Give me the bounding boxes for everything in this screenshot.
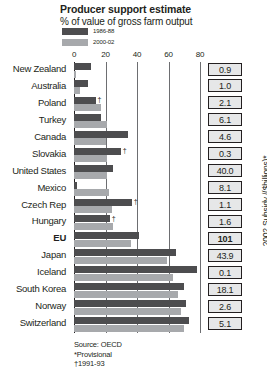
bar-old [74,232,139,239]
bar-row [74,283,200,300]
bar-old [74,266,197,273]
bar-new [74,240,131,247]
category-label: Mexico [37,183,66,193]
subsidy-value-box: 0.3 [208,147,242,160]
subsidy-value-box: 8.1 [208,181,242,194]
bar-new [74,172,107,179]
gridline [200,62,201,333]
bar-old [74,249,176,256]
right-axis-title: 2002 Subsidy /($billions)* [243,0,263,380]
source-note: Source: OECD [74,340,214,350]
bar-new [74,325,184,332]
subsidy-value-box: 43.9 [208,249,242,262]
bar-old [74,215,110,222]
legend-swatch [62,39,88,46]
subsidy-value-box: 18.1 [208,283,242,296]
footnote-marker: † [98,96,102,103]
bar-old [74,300,186,307]
category-label: Hungary [32,216,66,226]
bar-old [74,199,132,206]
category-label: Turkey [39,115,66,125]
source-note: †1991-93 [74,359,214,369]
subsidy-value-box: 40.0 [208,164,242,177]
subsidy-value-box: 0.9 [208,63,242,76]
bar-old [74,165,113,172]
category-label: Czech Rep [21,200,66,210]
bar-new [74,155,107,162]
category-label: Poland [38,98,66,108]
subsidy-value-box: 5.1 [208,317,242,330]
bar-row [74,165,200,182]
chart-title: Producer support estimate [60,3,260,15]
legend-label: 1986-88 [93,28,114,35]
bar-new [74,308,181,315]
bar-row [74,80,200,97]
bar-row: † [74,97,200,114]
bar-new [74,206,112,213]
chart-container: Producer support estimate % of value of … [0,0,267,380]
x-tick-label: 80 [196,50,205,59]
bar-new [74,274,173,281]
bar-new [74,257,167,264]
side-value-boxes: 0.91.02.16.14.60.340.08.11.11.610143.90.… [208,62,246,333]
category-label: Iceland [37,267,66,277]
bar-new [74,87,80,94]
source-notes: Source: OECD*Provisional†1991-93 [74,340,214,369]
bar-row [74,317,200,334]
bar-row: † [74,199,200,216]
x-axis-tick-labels: 020406080 [74,50,200,62]
chart-header: Producer support estimate % of value of … [60,3,260,28]
bar-old [74,80,88,87]
bar-new [74,121,107,128]
legend-item: 2000-02 [62,38,114,47]
bar-row [74,131,200,148]
category-label: Slovakia [32,149,66,159]
category-label: United States [12,166,66,176]
subsidy-value-box: 1.1 [208,198,242,211]
legend-item: 1986-88 [62,27,114,36]
bar-rows: †††† [74,62,200,333]
category-label: EU [53,233,66,243]
bar-row [74,300,200,317]
chart-legend: 1986-882000-02 [62,27,114,49]
bar-old [74,317,189,324]
x-tick-label: 0 [72,50,76,59]
category-label: Norway [35,301,66,311]
bar-new [74,223,113,230]
category-label: Japan [41,250,66,260]
right-axis-title-text: 2002 Subsidy /($billions)* [261,126,267,276]
bar-row: † [74,148,200,165]
source-note: *Provisional [74,350,214,360]
bar-old [74,131,128,138]
category-label: South Korea [16,284,66,294]
bar-old [74,114,101,121]
x-tick-label: 40 [133,50,142,59]
bar-old [74,63,91,70]
subsidy-value-box: 0.1 [208,266,242,279]
footnote-marker: † [112,215,116,222]
category-label: New Zealand [13,64,66,74]
category-label: Canada [34,132,66,142]
bar-new [74,71,76,78]
subsidy-value-box: 1.0 [208,79,242,92]
bar-new [74,138,106,145]
x-tick-label: 20 [101,50,110,59]
subsidy-value-box: 6.1 [208,113,242,126]
bar-new [74,291,178,298]
bar-row [74,114,200,131]
footnote-marker: † [123,147,127,154]
legend-swatch [62,28,88,35]
bar-row [74,232,200,249]
category-labels: New ZealandAustraliaPolandTurkeyCanadaSl… [0,62,70,333]
bar-new [74,189,109,196]
footnote-marker: † [134,198,138,205]
legend-label: 2000-02 [93,39,114,46]
subsidy-value-box: 101 [208,232,242,245]
bar-old [74,148,121,155]
bar-row [74,182,200,199]
subsidy-value-box: 1.6 [208,215,242,228]
subsidy-value-box: 2.1 [208,96,242,109]
category-label: Switzerland [20,318,66,328]
bar-old [74,182,77,189]
bar-new [74,104,101,111]
